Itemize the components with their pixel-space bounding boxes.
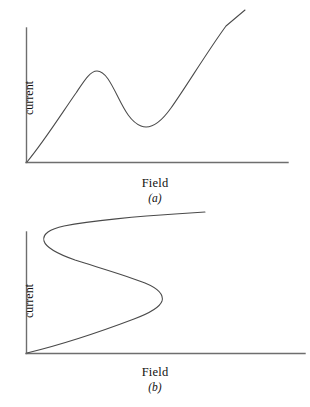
panel-caption-b: (b) [0,381,310,393]
x-axis-label-a: Field [0,176,310,191]
panel-b: current Field (b) [0,205,310,407]
y-axis-label-b: current [22,284,37,318]
panel-a: current Field (a) [0,0,310,205]
y-axis-label-a: current [22,81,37,115]
curve-a-n-shape [27,10,245,162]
panel-caption-a: (a) [0,192,310,204]
figure-root: current Field (a) current Field (b) [0,0,310,407]
curve-b-s-shape [27,212,205,353]
x-axis-label-b: Field [0,365,310,380]
plot-a [0,0,310,205]
